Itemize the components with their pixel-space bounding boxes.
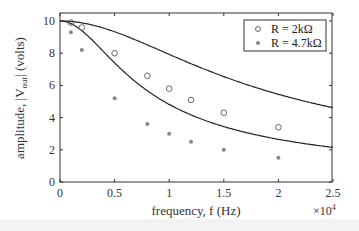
x-axis-multiplier: ×104 xyxy=(313,203,336,218)
data-point-filled xyxy=(276,156,280,160)
y-tick-label: 0 xyxy=(49,175,55,189)
data-point-filled xyxy=(222,148,226,152)
x-tick-label: 2 xyxy=(275,186,281,200)
data-point-filled xyxy=(69,30,73,34)
y-axis-label: amplitude, |Vout| (volts) xyxy=(12,37,29,159)
x-tick-label: 1.5 xyxy=(216,186,231,200)
x-tick-label: 1 xyxy=(166,186,172,200)
x-tick-label: 0 xyxy=(57,186,63,200)
data-point-filled xyxy=(167,132,171,136)
x-axis-label: frequency, f (Hz) xyxy=(151,203,240,218)
y-tick-label: 10 xyxy=(43,14,55,28)
data-point-open xyxy=(112,50,118,56)
data-point-open xyxy=(221,110,227,116)
legend-label-4-7k: R = 4.7kΩ xyxy=(271,36,322,50)
data-point-open xyxy=(145,73,151,79)
y-tick-label: 6 xyxy=(49,78,55,92)
data-point-filled xyxy=(80,48,84,52)
data-point-open xyxy=(188,97,194,103)
data-point-filled xyxy=(113,96,117,100)
data-point-open xyxy=(79,25,85,31)
x-tick-label: 2.5 xyxy=(326,186,341,200)
data-point-open xyxy=(276,124,282,130)
x-tick-label: 0.5 xyxy=(107,186,122,200)
y-tick-label: 2 xyxy=(49,143,55,157)
legend-label-2k: R = 2kΩ xyxy=(271,22,313,36)
legend: R = 2kΩ R = 4.7kΩ xyxy=(244,20,326,51)
data-point-open xyxy=(166,86,172,92)
y-tick-label: 8 xyxy=(49,46,55,60)
y-tick-label: 4 xyxy=(49,111,55,125)
legend-filled-dot-icon xyxy=(256,41,260,45)
data-point-filled xyxy=(189,140,193,144)
chart: 00.511.522.5 0246810 frequency, f (Hz) ×… xyxy=(0,0,359,231)
data-point-filled xyxy=(145,122,149,126)
